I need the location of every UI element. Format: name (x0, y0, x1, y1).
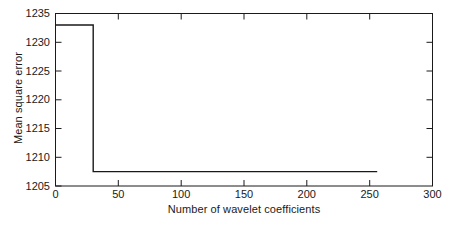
y-axis-title: Mean square error (12, 18, 24, 178)
x-tick-label: 200 (287, 188, 327, 200)
x-tick-label: 150 (224, 188, 264, 200)
x-tick-label: 50 (98, 188, 138, 200)
x-tick-label: 250 (350, 188, 390, 200)
y-axis-ticks-left (56, 14, 62, 187)
x-axis-ticks-bottom (56, 180, 433, 186)
data-series-line (56, 25, 378, 172)
x-tick-label: 0 (36, 188, 76, 200)
axes-frame (56, 14, 433, 187)
x-axis-ticks-top (118, 14, 369, 20)
x-axis-title: Number of wavelet coefficients (55, 203, 433, 215)
x-tick-label: 100 (161, 188, 201, 200)
y-axis-ticks-right (427, 42, 433, 157)
x-tick-label: 300 (413, 188, 453, 200)
figure-canvas: 1235 1230 1225 1220 1215 1210 1205 0 50 … (0, 0, 457, 225)
